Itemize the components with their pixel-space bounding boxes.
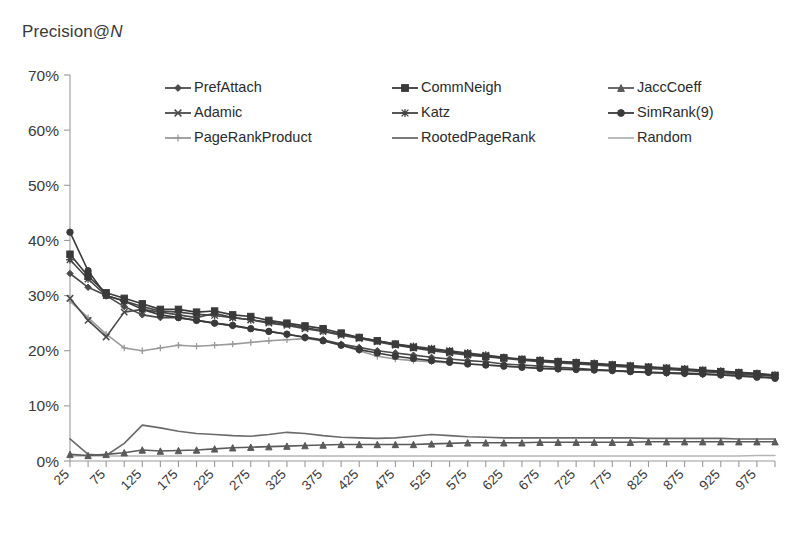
marker-circle — [193, 317, 199, 323]
marker-square — [320, 325, 326, 331]
x-tick-label: 375 — [299, 467, 326, 494]
marker-square — [537, 357, 543, 363]
marker-square — [175, 306, 181, 312]
chart-container: Precision@N 0%10%20%30%40%50%60%70%25751… — [0, 0, 798, 536]
marker-circle — [67, 229, 73, 235]
marker-circle — [211, 320, 217, 326]
x-tick-label: 325 — [263, 467, 290, 494]
marker-circle — [157, 312, 163, 318]
x-tick-label: 525 — [407, 467, 434, 494]
marker-square — [356, 334, 362, 340]
marker-circle — [681, 370, 687, 376]
marker-circle — [618, 110, 625, 117]
y-tick-label: 20% — [28, 342, 59, 359]
x-tick-label: 825 — [624, 467, 651, 494]
marker-square — [302, 323, 308, 329]
legend-item-rootedpagerank[interactable]: RootedPageRank — [392, 129, 536, 145]
marker-circle — [284, 331, 290, 337]
marker-square — [402, 85, 409, 92]
marker-plus — [175, 342, 181, 348]
marker-square — [392, 341, 398, 347]
legend-item-adamic[interactable]: Adamic — [165, 104, 242, 120]
marker-circle — [392, 353, 398, 359]
marker-circle — [338, 342, 344, 348]
marker-circle — [356, 346, 362, 352]
x-tick-label: 275 — [226, 467, 253, 494]
marker-plus — [139, 348, 145, 354]
marker-square — [229, 312, 235, 318]
legend-label: PrefAttach — [194, 79, 262, 95]
legend-item-simrank-9-[interactable]: SimRank(9) — [608, 104, 714, 120]
legend-label: JaccCoeff — [637, 79, 702, 95]
marker-circle — [464, 361, 470, 367]
marker-plus — [248, 339, 254, 345]
marker-circle — [699, 371, 705, 377]
x-tick-label: 225 — [190, 467, 217, 494]
marker-square — [428, 346, 434, 352]
marker-square — [446, 349, 452, 355]
x-tick-label: 425 — [335, 467, 362, 494]
marker-circle — [374, 350, 380, 356]
x-tick-label: 625 — [479, 467, 506, 494]
legend-item-jacccoeff[interactable]: JaccCoeff — [608, 79, 702, 95]
marker-circle — [248, 325, 254, 331]
x-tick-label: 675 — [516, 467, 543, 494]
x-tick-label: 175 — [154, 467, 181, 494]
marker-asterisk — [401, 109, 409, 117]
marker-circle — [501, 363, 507, 369]
marker-square — [374, 338, 380, 344]
marker-circle — [483, 362, 489, 368]
x-tick-label: 25 — [51, 467, 72, 488]
y-tick-label: 60% — [28, 122, 59, 139]
x-tick-label: 125 — [118, 467, 145, 494]
marker-square — [591, 361, 597, 367]
marker-square — [193, 309, 199, 315]
marker-circle — [772, 375, 778, 381]
marker-circle — [573, 366, 579, 372]
x-tick-label: 75 — [87, 467, 108, 488]
marker-square — [248, 313, 254, 319]
legend-label: Katz — [421, 104, 450, 120]
series-random — [70, 455, 775, 456]
marker-plus — [211, 342, 217, 348]
series-simrank-9- — [67, 229, 778, 382]
marker-square — [67, 251, 73, 257]
legend-label: SimRank(9) — [637, 104, 714, 120]
marker-plus — [229, 341, 235, 347]
marker-circle — [320, 338, 326, 344]
marker-circle — [519, 364, 525, 370]
legend-item-pagerankproduct[interactable]: PageRankProduct — [165, 129, 312, 145]
y-tick-label: 10% — [28, 397, 59, 414]
marker-plus — [193, 343, 199, 349]
marker-circle — [428, 357, 434, 363]
legend-item-prefattach[interactable]: PrefAttach — [165, 79, 262, 95]
marker-square — [284, 320, 290, 326]
marker-circle — [609, 367, 615, 373]
y-tick-label: 50% — [28, 177, 59, 194]
series-adamic — [67, 295, 778, 379]
marker-plus — [157, 345, 163, 351]
marker-circle — [302, 334, 308, 340]
marker-circle — [85, 268, 91, 274]
marker-circle — [645, 369, 651, 375]
series-line — [70, 455, 775, 456]
marker-circle — [229, 322, 235, 328]
marker-circle — [591, 367, 597, 373]
marker-circle — [121, 298, 127, 304]
legend-item-commneigh[interactable]: CommNeigh — [392, 79, 502, 95]
legend-label: PageRankProduct — [194, 129, 312, 145]
legend-item-random[interactable]: Random — [608, 129, 692, 145]
x-tick-label: 475 — [371, 467, 398, 494]
legend-item-katz[interactable]: Katz — [392, 104, 450, 120]
x-tick-label: 975 — [733, 467, 760, 494]
marker-circle — [446, 359, 452, 365]
marker-square — [483, 353, 489, 359]
series-line — [70, 274, 775, 378]
series-prefattach — [67, 270, 778, 381]
marker-circle — [736, 373, 742, 379]
y-tick-label: 40% — [28, 232, 59, 249]
marker-circle — [663, 370, 669, 376]
marker-square — [211, 308, 217, 314]
x-tick-label: 925 — [696, 467, 723, 494]
marker-diamond — [175, 85, 182, 92]
